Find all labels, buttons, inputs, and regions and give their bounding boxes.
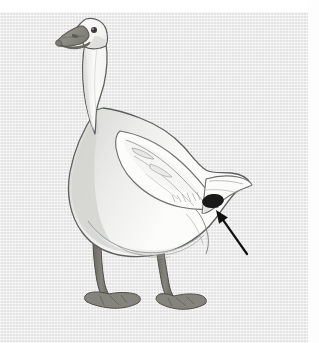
right-margin-band [308, 0, 319, 343]
pointer-arrow [216, 210, 247, 254]
beak [56, 26, 90, 49]
top-margin-band [0, 0, 319, 12]
figure-root [0, 0, 319, 343]
right-foot [156, 294, 206, 310]
eye [91, 27, 97, 33]
arrow-head [216, 210, 228, 224]
goose-illustration [0, 0, 319, 331]
body [69, 108, 253, 258]
eye-highlight [92, 28, 94, 30]
goose-figure [56, 18, 252, 309]
arrow-shaft [222, 218, 247, 254]
left-foot [85, 292, 141, 308]
